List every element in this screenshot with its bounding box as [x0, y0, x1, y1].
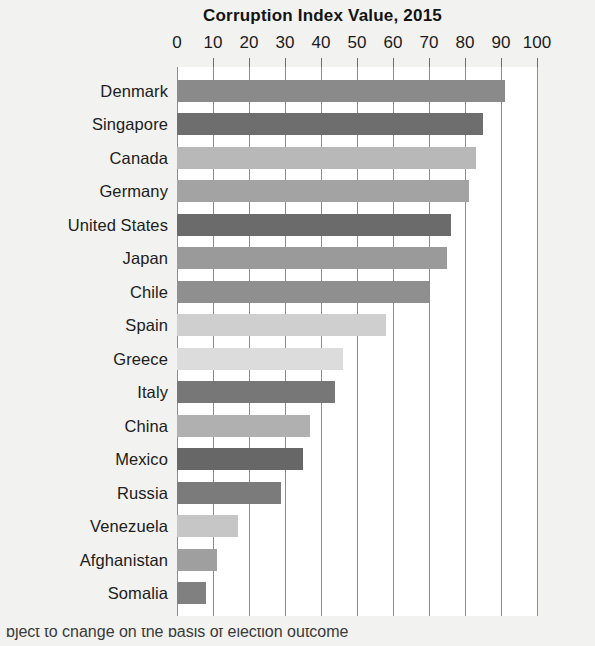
x-tick-mark-90	[501, 58, 502, 67]
x-tick-label-90: 90	[492, 33, 511, 53]
bar-category-label-japan: Japan	[123, 249, 168, 268]
bar-row: Singapore	[0, 108, 595, 142]
bar-category-label-venezuela: Venezuela	[90, 517, 168, 536]
bar-spain	[177, 314, 386, 336]
bar-row: Spain	[0, 309, 595, 343]
bar-russia	[177, 482, 281, 504]
bar-row: Chile	[0, 275, 595, 309]
x-tick-label-0: 0	[172, 33, 181, 53]
bar-category-label-singapore: Singapore	[92, 115, 168, 134]
x-tick-label-60: 60	[384, 33, 403, 53]
x-tick-mark-40	[321, 58, 322, 67]
bar-chile	[177, 281, 429, 303]
bar-row: Greece	[0, 342, 595, 376]
x-tick-mark-100	[537, 58, 538, 67]
bottom-caption-text: bject to change on the basis of election…	[6, 628, 348, 641]
bar-row: Italy	[0, 376, 595, 410]
x-tick-label-10: 10	[204, 33, 223, 53]
bar-italy	[177, 381, 335, 403]
bar-row: Venezuela	[0, 510, 595, 544]
x-tick-label-100: 100	[523, 33, 551, 53]
bar-china	[177, 415, 310, 437]
bar-afghanistan	[177, 549, 217, 571]
bar-row: Mexico	[0, 443, 595, 477]
x-tick-mark-30	[285, 58, 286, 67]
bar-row: Japan	[0, 242, 595, 276]
bar-row: United States	[0, 208, 595, 242]
bar-japan	[177, 247, 447, 269]
bar-category-label-canada: Canada	[110, 148, 168, 167]
bar-row: Canada	[0, 141, 595, 175]
x-tick-mark-60	[393, 58, 394, 67]
x-tick-label-20: 20	[240, 33, 259, 53]
bar-category-label-chile: Chile	[130, 282, 168, 301]
bar-category-label-greece: Greece	[113, 349, 168, 368]
bar-greece	[177, 348, 343, 370]
x-tick-mark-20	[249, 58, 250, 67]
chart-title: Corruption Index Value, 2015	[0, 6, 595, 26]
bar-somalia	[177, 582, 206, 604]
bars-layer: DenmarkSingaporeCanadaGermanyUnited Stat…	[0, 67, 595, 616]
bar-category-label-somalia: Somalia	[108, 584, 168, 603]
bar-united-states	[177, 214, 451, 236]
bar-row: Russia	[0, 476, 595, 510]
bar-category-label-denmark: Denmark	[100, 81, 168, 100]
bar-category-label-italy: Italy	[137, 383, 168, 402]
bar-row: Somalia	[0, 577, 595, 611]
x-tick-mark-50	[357, 58, 358, 67]
x-tick-label-70: 70	[420, 33, 439, 53]
bar-category-label-germany: Germany	[99, 182, 168, 201]
bar-category-label-mexico: Mexico	[115, 450, 168, 469]
bar-singapore	[177, 113, 483, 135]
bar-category-label-spain: Spain	[125, 316, 168, 335]
bar-canada	[177, 147, 476, 169]
bar-denmark	[177, 80, 505, 102]
plot-area: DenmarkSingaporeCanadaGermanyUnited Stat…	[0, 67, 595, 616]
bar-category-label-united-states: United States	[68, 215, 168, 234]
x-tick-label-50: 50	[348, 33, 367, 53]
bar-category-label-china: China	[124, 416, 168, 435]
bar-chart: Corruption Index Value, 2015 01020304050…	[0, 0, 595, 646]
x-tick-label-30: 30	[276, 33, 295, 53]
bar-category-label-russia: Russia	[117, 483, 168, 502]
bar-row: Germany	[0, 175, 595, 209]
x-tick-label-80: 80	[456, 33, 475, 53]
bar-row: China	[0, 409, 595, 443]
bottom-caption: bject to change on the basis of election…	[0, 628, 595, 646]
bar-venezuela	[177, 515, 238, 537]
x-tick-mark-80	[465, 58, 466, 67]
bar-row: Denmark	[0, 74, 595, 108]
x-tick-label-40: 40	[312, 33, 331, 53]
x-tick-mark-10	[213, 58, 214, 67]
bar-germany	[177, 180, 469, 202]
bar-category-label-afghanistan: Afghanistan	[80, 550, 168, 569]
bar-row: Afghanistan	[0, 543, 595, 577]
x-tick-mark-70	[429, 58, 430, 67]
x-axis-tick-marks	[0, 58, 595, 67]
bar-mexico	[177, 448, 303, 470]
x-axis-tick-labels: 0102030405060708090100	[0, 33, 595, 55]
